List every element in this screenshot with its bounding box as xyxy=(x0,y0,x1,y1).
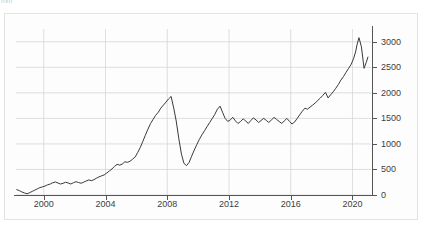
y-tick-label: 500 xyxy=(381,164,396,174)
plot-area xyxy=(16,29,371,195)
x-tick-label: 2000 xyxy=(34,199,54,209)
x-gridlines xyxy=(44,29,353,195)
x-axis xyxy=(14,195,374,196)
y-tick-label: 1000 xyxy=(381,139,401,149)
x-tick-label: 2012 xyxy=(219,199,239,209)
y-tick-mark xyxy=(373,42,377,43)
line-chart-svg xyxy=(16,29,371,195)
y-tick-mark xyxy=(373,93,377,94)
x-tick-label: 2008 xyxy=(157,199,177,209)
y-tick-mark xyxy=(373,169,377,170)
y-tick-mark xyxy=(373,144,377,145)
x-tick-label: 2016 xyxy=(281,199,301,209)
y-tick-label: 2500 xyxy=(381,62,401,72)
x-tick-label: 2020 xyxy=(342,199,362,209)
y-tick-mark xyxy=(373,118,377,119)
y-tick-label: 1500 xyxy=(381,113,401,123)
chart-figure: mm 050010001500200025003000 200020042008… xyxy=(0,0,422,228)
y-tick-label: 0 xyxy=(381,190,386,200)
series-line-index xyxy=(17,38,368,194)
y-gridlines xyxy=(16,42,371,195)
y-tick-mark xyxy=(373,67,377,68)
y-tick-mark xyxy=(373,195,377,196)
x-tick-label: 2004 xyxy=(96,199,116,209)
clipped-top-label: mm xyxy=(1,0,12,5)
y-axis xyxy=(372,26,373,196)
y-tick-label: 3000 xyxy=(381,37,401,47)
y-tick-label: 2000 xyxy=(381,88,401,98)
